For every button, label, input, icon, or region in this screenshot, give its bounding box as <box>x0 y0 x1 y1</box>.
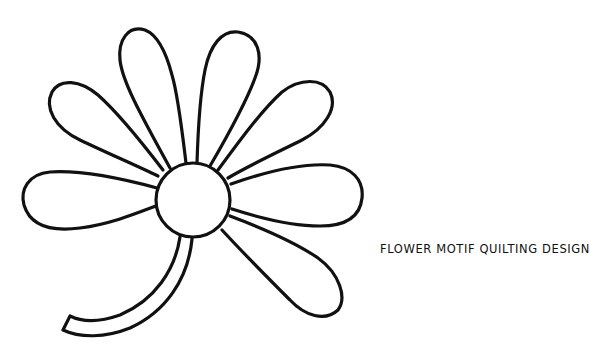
stem <box>63 237 192 336</box>
petal-left <box>23 172 157 229</box>
figure-caption: FLOWER MOTIF QUILTING DESIGN <box>380 242 590 256</box>
petal-lower-right <box>222 216 342 316</box>
flower-center <box>156 163 230 237</box>
petal-top-left <box>120 29 186 168</box>
petal-right <box>231 165 362 226</box>
petal-top-right <box>197 32 259 166</box>
petal-upper-left <box>49 83 163 176</box>
